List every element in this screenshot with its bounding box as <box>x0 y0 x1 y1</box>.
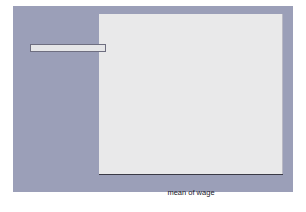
chart-figure: mean of wage <box>13 6 293 192</box>
legend <box>30 44 106 52</box>
x-axis-label: mean of wage <box>99 188 283 197</box>
x-axis-ticks <box>99 175 283 189</box>
bars-container <box>99 14 282 174</box>
plot-area <box>99 14 283 174</box>
